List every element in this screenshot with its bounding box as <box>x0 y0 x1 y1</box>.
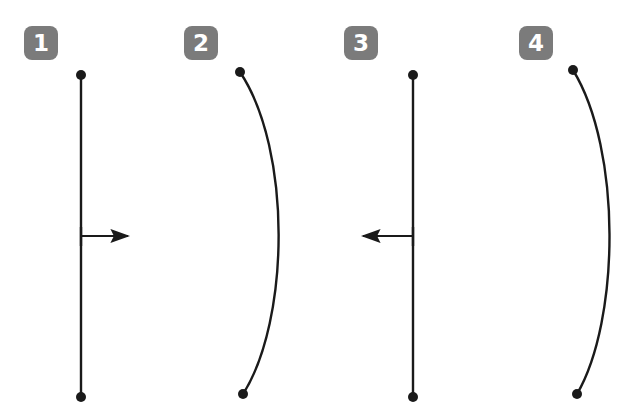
figure-canvas <box>0 0 619 418</box>
figure-2-bottom-endpoint-dot <box>238 389 248 399</box>
figure-3 <box>363 70 418 402</box>
figure-number-badge-4: 4 <box>519 26 553 60</box>
figure-2-curve <box>240 72 279 394</box>
figure-4-curve <box>573 70 610 394</box>
figure-1-top-endpoint-dot <box>76 70 86 80</box>
figure-number-badge-1: 1 <box>24 26 58 60</box>
figure-2 <box>235 67 279 399</box>
figure-4-bottom-endpoint-dot <box>572 389 582 399</box>
figure-1 <box>76 70 128 402</box>
figure-3-bottom-endpoint-dot <box>408 392 418 402</box>
figure-2-top-endpoint-dot <box>235 67 245 77</box>
figure-3-top-endpoint-dot <box>408 70 418 80</box>
figure-1-bottom-endpoint-dot <box>76 392 86 402</box>
figure-number-badge-3: 3 <box>344 26 378 60</box>
figure-4 <box>568 65 610 399</box>
figure-4-top-endpoint-dot <box>568 65 578 75</box>
figure-number-badge-2: 2 <box>184 26 218 60</box>
